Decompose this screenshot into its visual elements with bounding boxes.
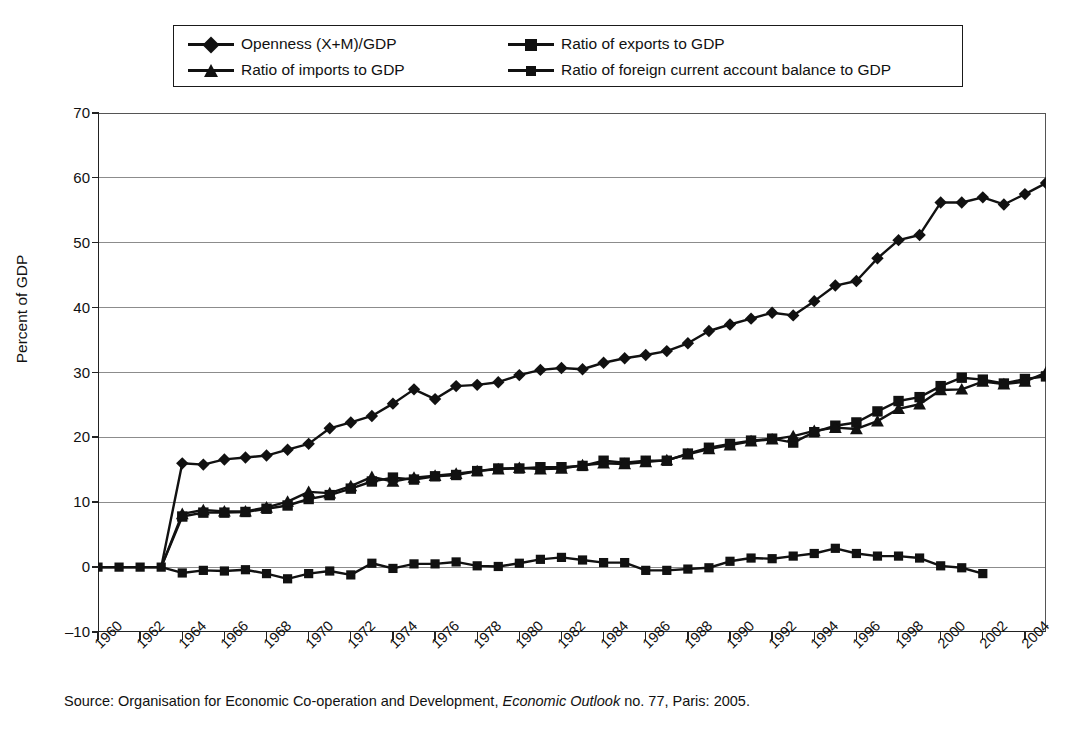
data-point-marker — [473, 561, 482, 570]
data-point-marker — [998, 198, 1010, 210]
y-tick-label: 50 — [46, 235, 90, 250]
data-point-marker — [367, 559, 376, 568]
legend-label-imports: Ratio of imports to GDP — [241, 62, 405, 78]
y-tick-label: 40 — [46, 300, 90, 315]
data-point-marker — [641, 566, 650, 575]
data-point-marker — [662, 566, 671, 575]
data-point-marker — [745, 312, 757, 324]
series-layer — [98, 113, 1046, 632]
data-point-marker — [260, 449, 272, 461]
source-prefix: Source: Organisation for Economic Co-ope… — [64, 693, 502, 709]
data-point-marker — [831, 544, 840, 553]
legend-entry-openness[interactable]: Openness (X+M)/GDP — [188, 31, 508, 57]
data-point-marker — [409, 559, 418, 568]
data-point-marker — [239, 451, 251, 463]
data-point-marker — [157, 563, 166, 572]
data-point-marker — [682, 337, 694, 349]
source-publication: Economic Outlook — [502, 693, 620, 709]
data-point-marker — [915, 553, 924, 562]
legend-row-2: Ratio of imports to GDP Ratio of foreign… — [188, 57, 952, 83]
data-point-marker — [430, 559, 439, 568]
y-tick-label: 60 — [46, 170, 90, 185]
data-point-marker — [578, 555, 587, 564]
data-point-marker — [452, 557, 461, 566]
data-point-marker — [704, 563, 713, 572]
data-point-marker — [281, 444, 293, 456]
data-point-marker — [450, 380, 462, 392]
y-tick-mark — [92, 501, 99, 503]
data-point-marker — [536, 555, 545, 564]
data-point-marker — [789, 551, 798, 560]
data-point-marker — [555, 362, 567, 374]
data-point-marker — [703, 325, 715, 337]
data-point-marker — [957, 372, 967, 382]
legend-label-exports: Ratio of exports to GDP — [561, 36, 725, 52]
y-tick-mark — [92, 242, 99, 244]
data-point-marker — [936, 561, 945, 570]
plot-area — [98, 113, 1046, 632]
data-point-marker — [178, 568, 187, 577]
y-tick-mark — [92, 372, 99, 374]
data-point-marker — [429, 393, 441, 405]
data-point-marker — [620, 558, 629, 567]
legend-entry-exports[interactable]: Ratio of exports to GDP — [508, 31, 725, 57]
y-tick-label: 0 — [46, 559, 90, 574]
data-point-marker — [661, 345, 673, 357]
data-point-marker — [576, 363, 588, 375]
y-axis-tick-labels: 706050403020100–10 — [38, 113, 90, 632]
data-point-marker — [325, 566, 334, 575]
data-point-marker — [366, 410, 378, 422]
data-point-marker — [913, 229, 925, 241]
data-point-marker — [262, 569, 271, 578]
y-tick-mark — [92, 631, 99, 633]
data-point-marker — [1019, 188, 1031, 200]
data-point-marker — [873, 551, 882, 560]
x-axis-tick-labels: 1960196219641966196819701972197419761978… — [0, 641, 1073, 697]
series-3 — [98, 366, 1046, 567]
data-point-marker — [557, 553, 566, 562]
data-point-marker — [241, 565, 250, 574]
data-point-marker — [492, 376, 504, 388]
data-point-marker — [957, 563, 966, 572]
data-point-marker — [114, 563, 123, 572]
series-line — [98, 376, 1046, 567]
data-point-marker — [346, 570, 355, 579]
y-tick-label: 20 — [46, 429, 90, 444]
y-tick-label: –10 — [46, 624, 90, 639]
data-point-marker — [283, 574, 292, 583]
data-point-marker — [725, 557, 734, 566]
data-point-marker — [746, 553, 755, 562]
data-point-marker — [597, 357, 609, 369]
data-point-marker — [220, 566, 229, 575]
data-point-marker — [471, 379, 483, 391]
legend-row-1: Openness (X+M)/GDP Ratio of exports to G… — [188, 31, 952, 57]
data-point-marker — [345, 416, 357, 428]
y-tick-mark — [92, 307, 99, 309]
data-point-marker — [768, 554, 777, 563]
data-point-marker — [534, 364, 546, 376]
data-point-marker — [513, 369, 525, 381]
data-point-marker — [618, 352, 630, 364]
data-point-marker — [199, 566, 208, 575]
data-point-marker — [304, 569, 313, 578]
data-point-marker — [218, 453, 230, 465]
y-tick-mark — [92, 112, 99, 114]
legend-entry-current-account[interactable]: Ratio of foreign current account balance… — [508, 57, 891, 83]
data-point-marker — [683, 564, 692, 573]
y-axis-title: Percent of GDP — [13, 219, 31, 399]
y-tick-mark — [92, 177, 99, 179]
series-4 — [98, 544, 987, 584]
y-tick-mark — [92, 436, 99, 438]
square-marker-icon — [508, 36, 554, 52]
data-point-marker — [956, 196, 968, 208]
source-suffix: no. 77, Paris: 2005. — [620, 693, 750, 709]
chart-legend: Openness (X+M)/GDP Ratio of exports to G… — [173, 25, 963, 87]
data-point-marker — [494, 562, 503, 571]
data-point-marker — [894, 551, 903, 560]
data-point-marker — [810, 549, 819, 558]
legend-entry-imports[interactable]: Ratio of imports to GDP — [188, 57, 508, 83]
source-note: Source: Organisation for Economic Co-ope… — [64, 692, 1024, 710]
triangle-marker-icon — [188, 62, 234, 78]
data-point-marker — [852, 549, 861, 558]
data-point-marker — [724, 318, 736, 330]
